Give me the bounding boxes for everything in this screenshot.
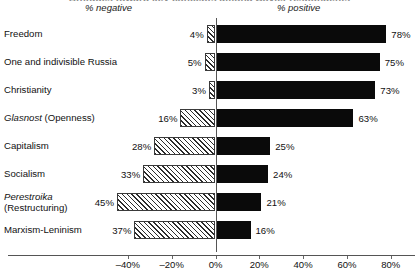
chart-row: Freedom4%78% (0, 20, 419, 48)
x-axis-tick-label: 40% (294, 259, 313, 270)
chart-row: Christianity3%73% (0, 76, 419, 104)
negative-bar (154, 137, 215, 155)
negative-value-label: 37% (108, 216, 131, 244)
negative-value-label: 45% (108, 188, 114, 216)
row-label: Glasnost (Openness) (4, 104, 108, 132)
row-label: Capitalism (4, 132, 108, 160)
diverging-bar-chart: Attitudes toward key concepts among Sovi… (0, 0, 419, 276)
positive-bar (216, 193, 262, 211)
positive-bar (216, 109, 354, 127)
row-label-text: Capitalism (4, 140, 49, 151)
row-label-text: Socialism (4, 168, 45, 179)
positive-value-label: 16% (256, 216, 275, 244)
x-axis-tick-label: 0% (209, 259, 223, 270)
chart-row: One and indivisible Russia5%75% (0, 48, 419, 76)
row-label: Socialism (4, 160, 108, 188)
chart-row: Socialism33%24% (0, 160, 419, 188)
negative-value-label: 5% (108, 48, 202, 76)
negative-value-label: 33% (108, 160, 140, 188)
negative-bar (180, 109, 215, 127)
chart-row: Marxism-Leninism37%16% (0, 216, 419, 244)
plot-area: Freedom4%78%One and indivisible Russia5%… (0, 18, 419, 256)
row-label-text: Freedom (4, 28, 42, 39)
negative-bar (143, 165, 215, 183)
positive-value-label: 24% (273, 160, 292, 188)
x-axis-line (8, 255, 415, 256)
positive-bar (216, 53, 380, 71)
positive-bar (216, 221, 251, 239)
negative-value-label: 4% (108, 20, 204, 48)
x-axis-tick-label: –40% (116, 259, 140, 270)
chart-row: Glasnost (Openness)16%63% (0, 104, 419, 132)
chart-row: Capitalism28%25% (0, 132, 419, 160)
positive-value-label: 63% (358, 104, 377, 132)
chart-row: Perestroika(Restructuring)45%21% (0, 188, 419, 216)
negative-bar (134, 221, 215, 239)
row-label-italic: Perestroika (4, 191, 53, 202)
negative-bar (205, 53, 216, 71)
row-label: Perestroika(Restructuring) (4, 188, 108, 216)
positive-bar (216, 137, 271, 155)
positive-bar (216, 25, 387, 43)
x-axis-tick-label: –20% (160, 259, 184, 270)
positive-value-label: 73% (380, 76, 399, 104)
positive-column-caption: % positive (277, 2, 320, 13)
row-label: One and indivisible Russia (4, 48, 108, 76)
positive-value-label: 75% (385, 48, 404, 76)
zero-axis-line (216, 18, 217, 252)
positive-bar (216, 165, 269, 183)
negative-bar (209, 81, 216, 99)
x-axis-tick-label: 60% (337, 259, 356, 270)
row-label-text: (Openness) (42, 112, 95, 123)
row-label-text: One and indivisible Russia (4, 56, 117, 67)
negative-value-label: 28% (108, 132, 151, 160)
negative-bar (117, 193, 216, 211)
positive-value-label: 21% (266, 188, 285, 216)
row-label: Marxism-Leninism (4, 216, 108, 244)
chart-title-clipped: Attitudes toward key concepts among Sovi… (0, 0, 419, 1)
positive-bar (216, 81, 376, 99)
row-label-line2: (Restructuring) (4, 202, 108, 214)
positive-value-label: 25% (275, 132, 294, 160)
positive-value-label: 78% (391, 20, 410, 48)
row-label-italic: Glasnost (4, 112, 42, 123)
negative-value-label: 16% (108, 104, 177, 132)
negative-bar (207, 25, 216, 43)
x-axis-tick-label: 20% (250, 259, 269, 270)
negative-column-caption: % negative (85, 2, 132, 13)
row-label-text: Christianity (4, 84, 51, 95)
row-label: Freedom (4, 20, 108, 48)
row-label: Christianity (4, 76, 108, 104)
x-axis-tick-label: 80% (381, 259, 400, 270)
negative-value-label: 3% (108, 76, 206, 104)
row-label-text: Marxism-Leninism (4, 224, 82, 235)
